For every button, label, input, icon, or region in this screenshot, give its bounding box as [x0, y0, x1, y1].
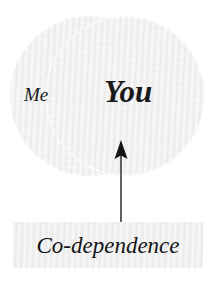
venn-label-you: You	[104, 76, 152, 107]
venn-diagram-canvas: Me You Co-dependence	[0, 0, 217, 285]
callout-arrow-up-icon	[105, 138, 137, 224]
callout-label-text: Co-dependence	[36, 234, 179, 257]
venn-label-me: Me	[24, 85, 48, 104]
callout-label-box: Co-dependence	[13, 222, 203, 268]
